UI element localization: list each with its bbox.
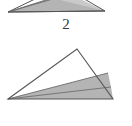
figure-sheet: 2 5 [0, 0, 132, 126]
top-figure-caption: 2 [0, 16, 132, 32]
top-triangle-panel: 2 [0, 0, 132, 40]
bottom-triangle-panel: 5 [0, 44, 132, 126]
bottom-triangle-figure [0, 44, 132, 126]
